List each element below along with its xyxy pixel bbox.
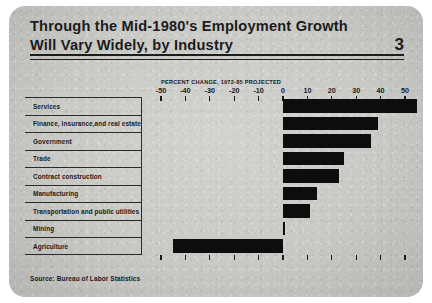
x-tick-mark-bottom-neg30 bbox=[209, 255, 210, 260]
bar bbox=[283, 222, 285, 236]
page-number: 3 bbox=[395, 35, 404, 55]
title-divider-rule bbox=[30, 54, 404, 60]
x-tick-label-neg10: -10 bbox=[253, 86, 263, 95]
bar bbox=[283, 187, 317, 201]
x-axis-tick-marks-bottom bbox=[9, 255, 423, 260]
x-tick-label-20: 20 bbox=[328, 86, 336, 95]
x-tick-mark-bottom-20 bbox=[331, 255, 332, 260]
x-tick-mark-bottom-neg40 bbox=[185, 255, 186, 260]
x-tick-mark-bottom-10 bbox=[307, 255, 308, 260]
x-tick-mark-bottom-30 bbox=[356, 255, 357, 260]
x-tick-label-40: 40 bbox=[377, 86, 385, 95]
page-title-line-1: Through the Mid-1980's Employment Growth bbox=[30, 18, 404, 35]
bar bbox=[283, 204, 310, 218]
title-row-2: Will Vary Widely, by Industry 3 bbox=[30, 35, 404, 55]
chart-card: Through the Mid-1980's Employment Growth… bbox=[9, 6, 423, 297]
x-tick-mark-bottom-50 bbox=[404, 255, 405, 260]
bar bbox=[283, 152, 344, 166]
bar bbox=[283, 134, 371, 148]
bars-layer bbox=[9, 97, 423, 255]
x-tick-label-30: 30 bbox=[352, 86, 360, 95]
title-block: Through the Mid-1980's Employment Growth… bbox=[30, 18, 404, 55]
x-tick-label-neg40: -40 bbox=[180, 86, 190, 95]
x-tick-mark-bottom-40 bbox=[380, 255, 381, 260]
x-tick-label-50: 50 bbox=[401, 86, 409, 95]
x-tick-label-neg20: -20 bbox=[229, 86, 239, 95]
x-tick-label-0: 0 bbox=[281, 86, 285, 95]
x-tick-label-neg30: -30 bbox=[205, 86, 215, 95]
bar bbox=[283, 117, 378, 131]
x-tick-mark-bottom-0 bbox=[282, 255, 283, 260]
x-axis-caption: PERCENT CHANGE, 1972-85 PROJECTED bbox=[161, 79, 281, 85]
bar bbox=[173, 239, 283, 253]
x-tick-label-10: 10 bbox=[303, 86, 311, 95]
bar bbox=[283, 99, 417, 113]
page-title-line-2: Will Vary Widely, by Industry bbox=[30, 37, 233, 54]
x-axis-tick-labels: -50-40-30-20-1001020304050 bbox=[9, 86, 423, 96]
source-note: Source: Bureau of Labor Statistics bbox=[30, 275, 140, 282]
bar bbox=[283, 169, 339, 183]
x-tick-mark-bottom-neg20 bbox=[234, 255, 235, 260]
x-tick-label-neg50: -50 bbox=[156, 86, 166, 95]
x-tick-mark-bottom-neg10 bbox=[258, 255, 259, 260]
x-tick-mark-bottom-neg50 bbox=[160, 255, 161, 260]
